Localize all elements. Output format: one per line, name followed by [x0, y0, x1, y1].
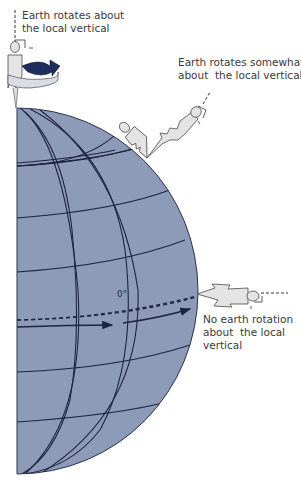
label-equator-line: 0°: [117, 289, 127, 299]
figure-equator: [197, 284, 288, 309]
label-equator: No earth rotation about the local vertic…: [203, 313, 293, 352]
label-midlatitude: Earth rotates somewhat about the local v…: [178, 56, 301, 82]
rotation-arrow-icon: [22, 60, 60, 76]
label-pole: Earth rotates about the local vertical: [22, 9, 124, 35]
globe: [17, 108, 198, 474]
figure-mid-latitude-body: [147, 92, 210, 158]
